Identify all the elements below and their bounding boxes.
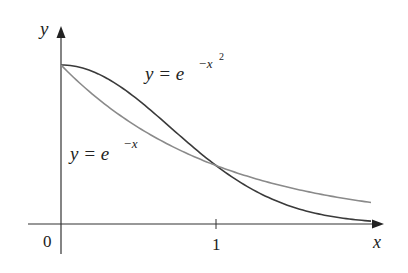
y-axis-arrow-icon <box>57 26 66 38</box>
x-tick-label-1: 1 <box>212 235 221 254</box>
y-axis-label: y <box>38 18 49 39</box>
curve-exp-neg-x <box>61 65 371 202</box>
label-exp-neg-x: y = e −x <box>68 136 138 164</box>
svg-text:y = e: y = e <box>68 143 109 164</box>
svg-text:2: 2 <box>219 51 224 62</box>
x-axis-label: x <box>372 232 381 252</box>
svg-text:−x: −x <box>123 136 138 151</box>
svg-text:−x: −x <box>198 56 213 71</box>
svg-text:y = e: y = e <box>143 63 184 84</box>
label-exp-neg-x-squared: y = e −x 2 <box>143 51 224 84</box>
x-tick-label-0: 0 <box>43 232 52 251</box>
x-axis-arrow-icon <box>372 220 384 229</box>
chart: y x 0 1 y = e −x 2 y = e −x <box>0 0 408 273</box>
